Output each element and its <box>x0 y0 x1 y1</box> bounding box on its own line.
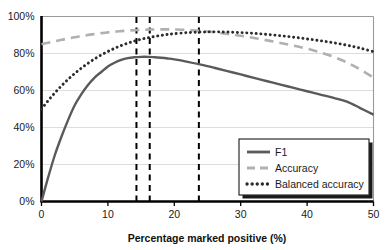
legend-label: Accuracy <box>275 162 319 174</box>
x-tick-label: 0 <box>39 208 45 220</box>
y-tick-label: 40% <box>13 121 34 133</box>
legend-label: F1 <box>275 146 287 158</box>
x-tick-label: 50 <box>368 208 380 220</box>
chart-legend: F1AccuracyBalanced accuracy <box>239 139 373 199</box>
y-tick-label: 80% <box>13 47 34 59</box>
y-axis-tick-labels: 0%20%40%60%80%100% <box>8 10 35 207</box>
y-tick-label: 60% <box>13 84 34 96</box>
chart-figure: 0%20%40%60%80%100% 01020304050 Percentag… <box>0 0 387 250</box>
legend-label: Balanced accuracy <box>275 178 364 190</box>
x-tick-label: 30 <box>235 208 247 220</box>
x-tick-label: 20 <box>168 208 180 220</box>
x-axis-tick-labels: 01020304050 <box>39 208 380 220</box>
series-line-balanced-accuracy <box>42 32 374 109</box>
threshold-lines <box>136 17 198 201</box>
y-tick-label: 100% <box>8 10 35 22</box>
x-tick-label: 10 <box>102 208 114 220</box>
y-tick-label: 20% <box>13 158 34 170</box>
x-axis-title: Percentage marked positive (%) <box>128 232 287 244</box>
y-tick-label: 0% <box>19 195 34 207</box>
line-chart: 0%20%40%60%80%100% 01020304050 Percentag… <box>0 0 387 250</box>
x-tick-label: 40 <box>301 208 313 220</box>
